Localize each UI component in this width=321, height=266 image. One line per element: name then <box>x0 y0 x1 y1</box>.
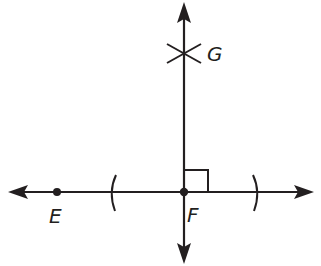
label-f: F <box>187 203 199 227</box>
right-angle-marker <box>184 170 208 192</box>
perpendicular-construction-diagram: E F G <box>0 0 321 266</box>
point-e <box>53 188 61 196</box>
label-e: E <box>49 204 62 228</box>
point-f <box>180 188 188 196</box>
label-g: G <box>207 42 223 66</box>
